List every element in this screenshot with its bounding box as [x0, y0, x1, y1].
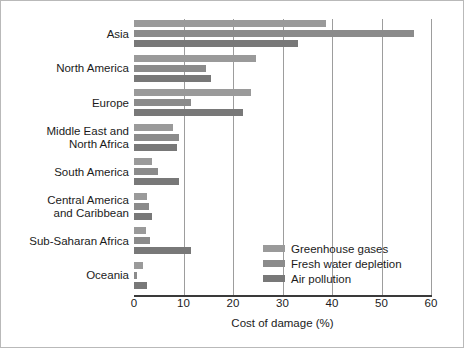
x-axis-title: Cost of damage (%): [134, 317, 431, 329]
category-label: Middle East and North Africa: [1, 125, 129, 151]
x-tick-label: 0: [131, 297, 137, 309]
gridline: [431, 19, 432, 295]
bar: [134, 262, 143, 269]
bar: [134, 40, 298, 47]
legend-label: Air pollution: [291, 273, 351, 285]
category-label: South America: [1, 166, 129, 179]
bar: [134, 237, 150, 244]
legend-swatch-icon: [263, 275, 285, 282]
bar: [134, 247, 191, 254]
bar-group: [134, 88, 431, 118]
x-tick-label: 60: [425, 297, 438, 309]
bar-group: [134, 192, 431, 222]
bar: [134, 65, 206, 72]
category-label: Europe: [1, 97, 129, 110]
bar: [134, 124, 173, 131]
bar: [134, 227, 146, 234]
bar: [134, 89, 251, 96]
x-tick-label: 30: [276, 297, 289, 309]
bar: [134, 158, 152, 165]
x-tick-label: 10: [177, 297, 190, 309]
bar: [134, 213, 152, 220]
bar-group: [134, 123, 431, 153]
x-tick-label: 50: [375, 297, 388, 309]
bar: [134, 30, 414, 37]
bar: [134, 272, 137, 279]
legend-item[interactable]: Greenhouse gases: [263, 241, 402, 256]
bar: [134, 168, 158, 175]
legend-item[interactable]: Air pollution: [263, 271, 402, 286]
category-label: Asia: [1, 28, 129, 41]
category-label: Oceania: [1, 269, 129, 282]
category-axis-labels: AsiaNorth AmericaEuropeMiddle East and N…: [1, 19, 131, 295]
legend-label: Greenhouse gases: [291, 243, 388, 255]
bar: [134, 178, 179, 185]
chart-legend: Greenhouse gasesFresh water depletionAir…: [263, 241, 402, 286]
legend-swatch-icon: [263, 260, 285, 267]
bar-group: [134, 157, 431, 187]
bar-group: [134, 19, 431, 49]
bar: [134, 20, 326, 27]
bar: [134, 55, 256, 62]
bar: [134, 134, 179, 141]
bar: [134, 282, 147, 289]
category-label: North America: [1, 62, 129, 75]
bar: [134, 193, 147, 200]
legend-swatch-icon: [263, 245, 285, 252]
bar: [134, 203, 149, 210]
category-label: Sub-Saharan Africa: [1, 235, 129, 248]
category-label: Central America and Caribbean: [1, 194, 129, 220]
bar: [134, 75, 211, 82]
bar: [134, 109, 243, 116]
legend-label: Fresh water depletion: [291, 258, 402, 270]
x-tick-label: 20: [227, 297, 240, 309]
bar: [134, 99, 191, 106]
x-tick-label: 40: [326, 297, 339, 309]
bar: [134, 144, 177, 151]
bar-group: [134, 54, 431, 84]
chart-figure: AsiaNorth AmericaEuropeMiddle East and N…: [0, 0, 464, 348]
x-axis-ticks: 0102030405060: [134, 297, 431, 313]
legend-item[interactable]: Fresh water depletion: [263, 256, 402, 271]
